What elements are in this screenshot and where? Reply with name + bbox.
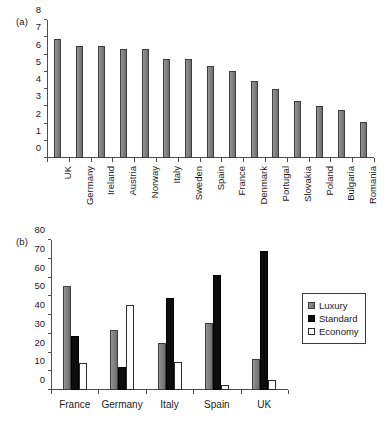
panel-b-y-tick-label: 60: [34, 261, 45, 272]
panel-a-x-label-wrap: UK: [62, 165, 73, 178]
panel-b-x-tick: [193, 390, 194, 394]
panel-b-y-tick: [48, 239, 51, 240]
panel-b-y-tick: [48, 314, 51, 315]
panel-a-y-tick: [44, 123, 47, 124]
panel-b-x-label: Italy: [160, 399, 178, 410]
panel-a-x-label-wrap: Slovakia: [302, 165, 313, 201]
bar: [272, 89, 279, 158]
panel-b-y-tick: [48, 333, 51, 334]
panel-b-y-tick-label: 10: [34, 355, 45, 366]
bar: [260, 251, 268, 390]
panel-a-x-label: Italy: [171, 166, 182, 183]
bar: [63, 286, 71, 390]
panel-a-x-tick: [309, 158, 310, 162]
panel-a-x-tick: [221, 158, 222, 162]
panel-a-x-label: Bulgaria: [345, 166, 356, 201]
bar: [158, 343, 166, 390]
panel-a-x-label-wrap: Ireland: [105, 165, 116, 194]
panel-b-tag: (b): [16, 236, 28, 247]
bar: [79, 363, 87, 390]
bar: [76, 46, 83, 158]
panel-b-y-tick-label: 50: [34, 280, 45, 291]
panel-a-y-tick-label: 4: [36, 73, 41, 84]
panel-b-y-tick: [48, 295, 51, 296]
legend-swatch-icon: [308, 315, 315, 322]
bar: [207, 66, 214, 158]
panel-a-y-tick: [44, 19, 47, 20]
panel-a-y-tick-label: 0: [36, 142, 41, 153]
panel-b-x-label: UK: [257, 399, 271, 410]
bar: [110, 330, 118, 390]
bar: [185, 59, 192, 158]
panel-a-x-label: Austria: [127, 166, 138, 196]
panel-a-y-tick: [44, 105, 47, 106]
panel-a-x-tick: [69, 158, 70, 162]
legend-item-label: Economy: [319, 327, 359, 337]
panel-b-y-axis: [51, 240, 52, 390]
panel-a-tag: (a): [16, 16, 28, 27]
panel-a-x-tick: [243, 158, 244, 162]
panel-a-x-label-wrap: Germany: [84, 165, 95, 204]
panel-b-y-tick-label: 30: [34, 317, 45, 328]
panel-a-y-tick-label: 1: [36, 124, 41, 135]
panel-a-x-tick: [91, 158, 92, 162]
panel-b-x-tick: [288, 390, 289, 394]
panel-b-y-tick-label: 0: [40, 374, 45, 385]
chart-panel-b: (b) 01020304050607080FranceGermanyItalyS…: [0, 218, 389, 436]
panel-a-plot-area: 012345678UKGermanyIrelandAustriaNorwayIt…: [47, 20, 374, 158]
panel-a-x-label-wrap: France: [236, 165, 247, 195]
panel-a-y-tick-label: 5: [36, 55, 41, 66]
panel-a-x-label-wrap: Bulgaria: [345, 165, 356, 200]
bar: [360, 122, 367, 158]
panel-b-y-tick: [48, 352, 51, 353]
panel-b-x-tick: [146, 390, 147, 394]
bar: [166, 298, 174, 390]
panel-b-x-tick: [98, 390, 99, 394]
panel-a-x-label: Germany: [84, 166, 95, 205]
panel-b-x-tick: [51, 390, 52, 394]
panel-a-y-tick: [44, 71, 47, 72]
panel-a-y-tick-label: 2: [36, 107, 41, 118]
panel-a-y-tick-label: 6: [36, 38, 41, 49]
panel-a-x-label: Norway: [149, 166, 160, 198]
panel-a-y-tick: [44, 36, 47, 37]
bar: [268, 380, 276, 390]
legend-item-label: Standard: [319, 314, 358, 324]
bar: [142, 49, 149, 158]
panel-a-x-label-wrap: Poland: [324, 165, 335, 195]
bar: [174, 362, 182, 390]
panel-a-x-tick: [265, 158, 266, 162]
panel-a-x-label: Ireland: [105, 166, 116, 195]
bar: [213, 275, 221, 390]
bar: [221, 385, 229, 390]
panel-a-x-label-wrap: Sweden: [193, 165, 204, 199]
panel-a-y-tick: [44, 140, 47, 141]
panel-b-x-tick: [241, 390, 242, 394]
bar: [118, 367, 126, 390]
panel-b-y-tick-label: 70: [34, 242, 45, 253]
panel-a-x-tick: [112, 158, 113, 162]
bar: [71, 336, 79, 390]
panel-a-x-tick: [134, 158, 135, 162]
panel-b-y-tick-label: 40: [34, 299, 45, 310]
panel-a-x-label: UK: [62, 166, 73, 179]
legend-item-label: Luxury: [319, 301, 348, 311]
panel-a-x-label-wrap: Portugal: [280, 165, 291, 200]
panel-a-y-tick-label: 8: [36, 4, 41, 15]
panel-a-x-tick: [156, 158, 157, 162]
panel-a-x-label-wrap: Romania: [367, 165, 378, 203]
panel-a-x-tick: [374, 158, 375, 162]
panel-a-y-tick: [44, 88, 47, 89]
legend-item: Economy: [308, 325, 359, 338]
panel-a-x-label: Denmark: [258, 166, 269, 205]
legend-swatch-icon: [308, 328, 315, 335]
panel-b-y-tick: [48, 370, 51, 371]
panel-a-x-label: Spain: [215, 166, 226, 190]
panel-a-x-label: Poland: [324, 166, 335, 196]
panel-a-y-tick-label: 3: [36, 90, 41, 101]
chart-legend: LuxuryStandardEconomy: [302, 293, 366, 344]
panel-a-x-label: Romania: [367, 166, 378, 204]
bar: [120, 49, 127, 158]
chart-panel-a: (a) 012345678UKGermanyIrelandAustriaNorw…: [0, 0, 389, 218]
panel-b-y-tick-label: 80: [34, 224, 45, 235]
